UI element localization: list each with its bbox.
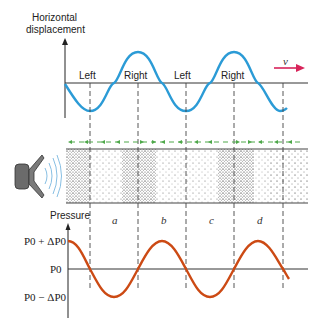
region-label-a: a — [112, 214, 118, 226]
pressure-axis-label: Pressure — [50, 210, 90, 221]
y-axis-label-line1: Horizontal — [32, 12, 77, 23]
pressure-axis-arrowhead-icon — [66, 223, 71, 230]
y-axis-label-line2: displacement — [26, 24, 85, 35]
marker-right-2: Right — [221, 70, 245, 81]
pressure-high-label: P0 + ΔP0 — [24, 235, 67, 247]
pressure-graph: Pressure P0 + ΔP0 P0 P0 − ΔP0 — [24, 210, 308, 318]
displacement-curve — [65, 52, 287, 111]
compression-region — [218, 149, 254, 203]
sound-waves-icon — [45, 155, 62, 197]
rarefaction-region — [266, 149, 308, 203]
speaker-icon — [15, 155, 62, 198]
region-label-c: c — [209, 214, 214, 226]
pressure-mid-label: P0 — [50, 263, 62, 275]
particle-displacement-arrows — [68, 140, 300, 144]
region-label-d: d — [257, 214, 263, 226]
sound-wave-diagram: Horizontal displacement Left Right Left … — [0, 0, 318, 325]
velocity-label: v — [283, 55, 288, 67]
pressure-low-label: P0 − ΔP0 — [24, 291, 67, 303]
compression-region — [122, 149, 156, 203]
air-tube — [66, 149, 308, 203]
velocity-arrow-icon — [296, 64, 305, 72]
marker-left-2: Left — [174, 70, 191, 81]
displacement-graph: Horizontal displacement Left Right Left … — [26, 12, 308, 118]
region-label-b: b — [161, 214, 167, 226]
marker-left-1: Left — [79, 70, 96, 81]
marker-right-1: Right — [124, 70, 148, 81]
y-axis-arrowhead-icon — [62, 38, 68, 45]
compression-region — [66, 149, 90, 203]
